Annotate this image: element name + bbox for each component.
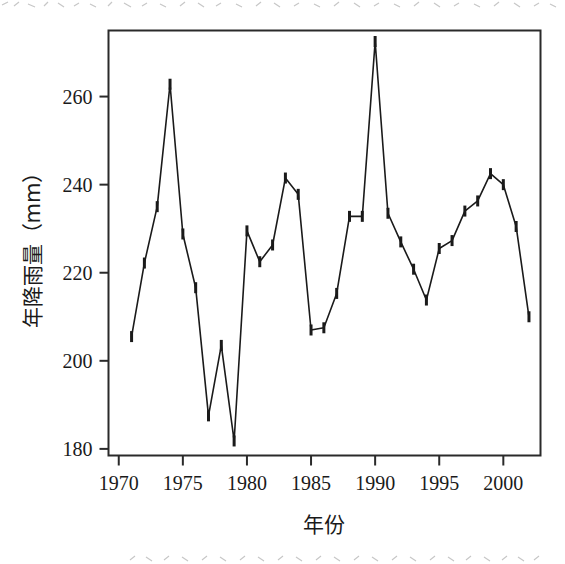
x-tick-label: 1975: [163, 472, 203, 494]
chart-canvas: 180200220240260 197019751980198519901995…: [0, 0, 565, 564]
x-axis-title: 年份: [303, 513, 345, 537]
x-tick-label: 1970: [99, 472, 139, 494]
y-tick-label: 200: [63, 350, 93, 372]
y-tick-label: 180: [63, 438, 93, 460]
y-tick-label: 240: [63, 174, 93, 196]
x-tick-label: 1990: [355, 472, 395, 494]
x-tick-label: 1985: [291, 472, 331, 494]
x-tick-label: 1995: [419, 472, 459, 494]
scan-artifact-top: [0, 0, 565, 10]
x-axis-tick-labels: 1970197519801985199019952000: [99, 472, 524, 494]
plot-frame: [109, 31, 541, 456]
x-tick-label: 2000: [483, 472, 523, 494]
rainfall-line-chart-figure: 180200220240260 197019751980198519901995…: [0, 0, 565, 564]
scan-artifact-bottom-svg: [0, 552, 565, 564]
y-tick-label: 260: [63, 86, 93, 108]
y-axis-tick-labels: 180200220240260: [63, 86, 93, 460]
scan-artifact-bottom: [0, 552, 565, 564]
x-axis-ticks: [119, 456, 504, 466]
y-axis-ticks: [100, 97, 109, 449]
scan-artifact-top-svg: [0, 0, 565, 10]
data-series-markers: [132, 36, 529, 446]
x-tick-label: 1980: [227, 472, 267, 494]
data-series-line: [132, 42, 529, 441]
y-axis-title: 年降雨量（mm）: [21, 162, 45, 329]
y-tick-label: 220: [63, 262, 93, 284]
